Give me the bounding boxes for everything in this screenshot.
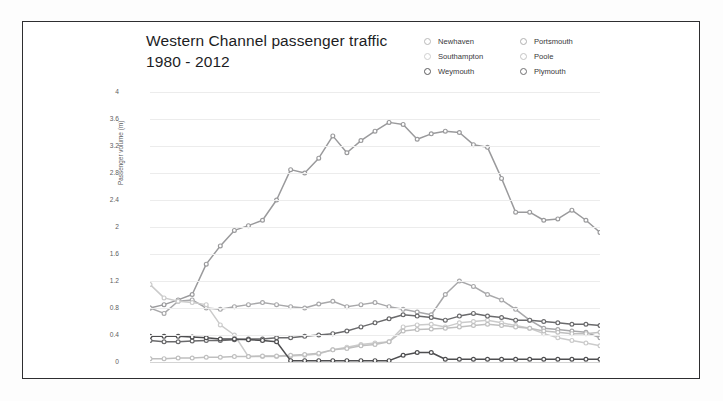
legend-marker-icon [520, 53, 527, 60]
legend-item-label: Portsmouth [534, 37, 573, 46]
chart-title-line2: 1980 - 2012 [146, 51, 426, 72]
chart-title-line1: Western Channel passenger traffic [146, 30, 426, 51]
legend-item-weymouth[interactable]: Weymouth [424, 67, 520, 76]
chart-title: Western Channel passenger traffic 1980 -… [146, 30, 426, 72]
gridline [150, 200, 600, 201]
series-newhaven [150, 279, 600, 340]
y-axis-tick-label: 3.2 [91, 142, 119, 149]
y-axis-tick-label: 0 [91, 358, 119, 365]
y-axis-tick-label: 4 [91, 88, 119, 95]
y-axis-tick-label: 2.4 [91, 196, 119, 203]
gridline [150, 227, 600, 228]
legend-marker-icon [424, 38, 431, 45]
legend-item-label: Weymouth [438, 67, 474, 76]
legend-marker-icon [424, 68, 431, 75]
y-axis-tick-label: 1.2 [91, 277, 119, 284]
y-axis-tick-label: 0.4 [91, 331, 119, 338]
legend-marker-icon [520, 68, 527, 75]
plot-area: 1980198219841986198819901992199419961998… [150, 92, 600, 362]
legend-item-southampton[interactable]: Southampton [424, 52, 520, 61]
legend-item-portsmouth[interactable]: Portsmouth [520, 37, 616, 46]
gridline [150, 173, 600, 174]
gridline [150, 281, 600, 282]
gridline [150, 119, 600, 120]
legend-item-poole[interactable]: Poole [520, 52, 616, 61]
gridline [150, 308, 600, 309]
chart-page: Western Channel passenger traffic 1980 -… [0, 0, 723, 401]
x-axis-line [150, 362, 600, 363]
legend-item-label: Poole [534, 52, 553, 61]
y-axis-tick-label: 2.8 [91, 169, 119, 176]
y-axis-tick-label: 2 [91, 223, 119, 230]
gridline [150, 254, 600, 255]
y-axis-tick-label: 1.6 [91, 250, 119, 257]
legend-marker-icon [520, 38, 527, 45]
legend-item-label: Southampton [438, 52, 483, 61]
legend-item-newhaven[interactable]: Newhaven [424, 37, 520, 46]
legend-item-label: Plymouth [534, 67, 566, 76]
gridline [150, 146, 600, 147]
chart-legend: NewhavenPortsmouthSouthamptonPooleWeymou… [424, 34, 614, 79]
legend-item-plymouth[interactable]: Plymouth [520, 67, 616, 76]
gridline [150, 335, 600, 336]
legend-marker-icon [424, 53, 431, 60]
y-axis-tick-label: 0.8 [91, 304, 119, 311]
gridline [150, 92, 600, 93]
y-axis-tick-label: 3.6 [91, 115, 119, 122]
legend-item-label: Newhaven [438, 37, 474, 46]
